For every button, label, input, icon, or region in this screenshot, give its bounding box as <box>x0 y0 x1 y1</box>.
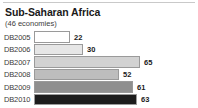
bar-row: DB201063 <box>0 94 198 106</box>
bar-track: 30 <box>34 44 198 56</box>
chart-card: Sub-Saharan Africa (46 economies) DB2005… <box>0 0 198 108</box>
bar-track: 61 <box>34 81 198 93</box>
bar-category-label: DB2006 <box>4 45 34 54</box>
chart-subtitle: (46 economies) <box>5 19 57 28</box>
bar-row: DB200765 <box>0 56 198 68</box>
bar-track: 63 <box>34 94 198 106</box>
bar-fill <box>34 69 119 81</box>
bar-row: DB200852 <box>0 69 198 81</box>
bar-fill <box>34 94 137 106</box>
bar-category-label: DB2010 <box>4 95 34 104</box>
bar-fill <box>34 31 70 43</box>
bar-category-label: DB2008 <box>4 70 34 79</box>
top-divider <box>3 2 195 3</box>
bar-row: DB200961 <box>0 81 198 93</box>
bar-value-label: 30 <box>87 45 95 54</box>
bar-value-label: 22 <box>74 33 82 42</box>
bar-track: 52 <box>34 69 198 81</box>
bar-chart: DB200522DB200630DB200765DB200852DB200961… <box>0 31 198 107</box>
bar-value-label: 52 <box>123 70 131 79</box>
bar-track: 22 <box>34 31 198 43</box>
bar-category-label: DB2009 <box>4 83 34 92</box>
bar-category-label: DB2005 <box>4 33 34 42</box>
bar-value-label: 65 <box>144 58 152 67</box>
bar-value-label: 63 <box>141 95 149 104</box>
bar-fill <box>34 44 83 56</box>
bar-row: DB200522 <box>0 31 198 43</box>
bar-category-label: DB2007 <box>4 58 34 67</box>
bar-track: 65 <box>34 56 198 68</box>
bar-fill <box>34 81 133 93</box>
bar-row: DB200630 <box>0 44 198 56</box>
bar-fill <box>34 56 140 68</box>
page-title: Sub-Saharan Africa <box>5 6 100 18</box>
bar-value-label: 61 <box>137 83 145 92</box>
